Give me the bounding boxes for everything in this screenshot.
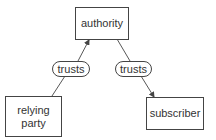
trusts-right-text: trusts [120, 63, 147, 75]
authority-node: authority [75, 7, 129, 40]
edge-trusts-left-to-authority [78, 40, 89, 61]
edge-authority-to-trusts-right [117, 39, 130, 61]
trusts-left-text: trusts [58, 63, 85, 75]
authority-label: authority [81, 17, 123, 30]
relying-party-node: relying party [5, 96, 62, 137]
subscriber-node: subscriber [146, 97, 204, 130]
relying-party-label: relying party [17, 104, 49, 130]
subscriber-label: subscriber [150, 107, 201, 120]
edge-relying-party-to-trusts-left [52, 76, 65, 96]
trusts-label-left: trusts [52, 61, 90, 77]
trusts-label-right: trusts [115, 61, 152, 77]
edge-trusts-right-to-subscriber [141, 76, 154, 97]
